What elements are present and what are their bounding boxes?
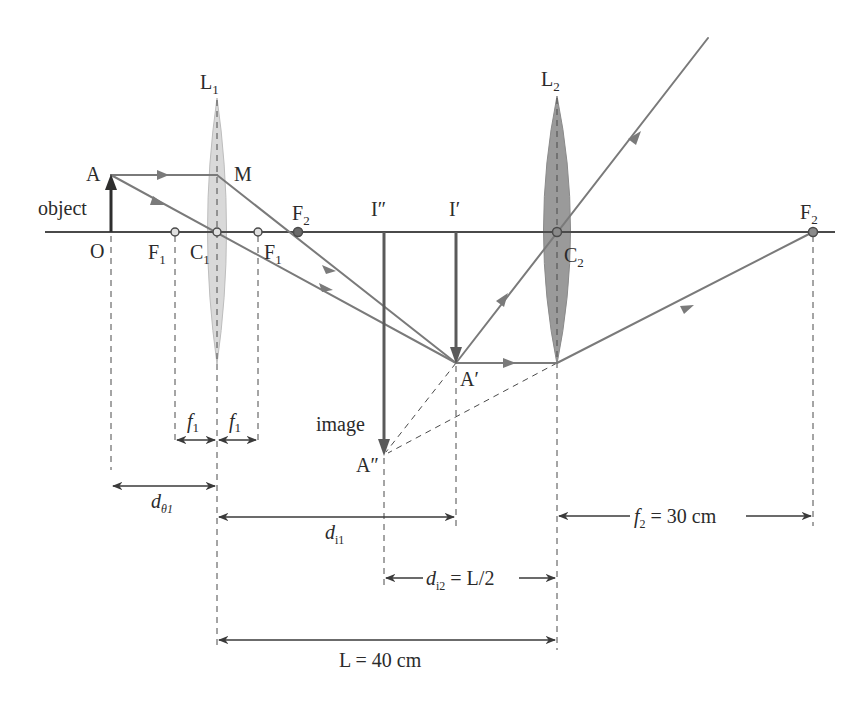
center-c2-marker bbox=[553, 228, 562, 237]
final-image-arrow-head bbox=[378, 439, 390, 456]
point-a-double-prime-label: A″ bbox=[356, 454, 379, 476]
focus-f2-far-label: F2 bbox=[800, 201, 818, 227]
point-m-label: M bbox=[234, 163, 252, 185]
first-image-base-label: I′ bbox=[449, 198, 460, 220]
focus-f2-near-marker bbox=[294, 228, 303, 237]
lens-l1-label: L1 bbox=[200, 71, 219, 97]
dim-f1-left-label: f1 bbox=[187, 410, 199, 435]
focus-f2-near-label: F2 bbox=[292, 202, 310, 228]
focus-f1-left-marker bbox=[171, 228, 179, 236]
center-c1-marker bbox=[213, 228, 221, 236]
dim-di1-label: di1 bbox=[325, 521, 344, 547]
point-a-label: A bbox=[86, 163, 101, 185]
image-label: image bbox=[316, 413, 365, 436]
focus-f1-right-marker bbox=[254, 228, 262, 236]
point-a-prime-label: A′ bbox=[460, 368, 479, 390]
dim-di2-label: di2 = L/2 bbox=[426, 567, 494, 593]
dim-do1-label: dθ1 bbox=[151, 490, 173, 516]
dim-f1-right-label: f1 bbox=[229, 410, 241, 435]
center-c1-label: C1 bbox=[190, 241, 210, 267]
dimension-lines bbox=[113, 440, 811, 640]
ray-direction-arrows bbox=[150, 131, 694, 368]
dim-L-label: L = 40 cm bbox=[339, 649, 422, 671]
focus-f2-far-marker bbox=[809, 228, 818, 237]
lens-l2-label: L2 bbox=[541, 68, 560, 94]
two-lens-ray-diagram: L1 L2 A M object O F1 C1 F1 F2 I″ I′ C2 … bbox=[0, 0, 861, 704]
focus-f1-left-label: F1 bbox=[148, 241, 166, 267]
point-o-label: O bbox=[90, 240, 104, 262]
dim-f2-label: f2 = 30 cm bbox=[634, 505, 717, 531]
object-label: object bbox=[38, 197, 87, 220]
final-image-base-label: I″ bbox=[371, 198, 386, 220]
